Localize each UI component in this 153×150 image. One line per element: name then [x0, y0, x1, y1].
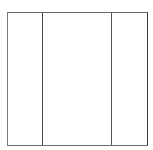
center-panel: [43, 13, 112, 145]
right-panel: [112, 13, 147, 145]
layout-frame: [7, 12, 148, 146]
left-panel: [8, 13, 43, 145]
